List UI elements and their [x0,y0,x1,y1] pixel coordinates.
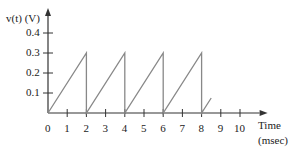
sawtooth-line [48,53,211,113]
y-axis-label-text: v(t) (V) [6,12,40,24]
x-tick-label: 10 [234,123,245,134]
x-tick-label: 0 [45,123,51,134]
x-axis-units-text: (msec) [258,134,288,146]
y-axis-arrow-icon [45,8,51,16]
y-axis-label: v(t) (V) [6,13,40,24]
x-tick-label: 5 [141,123,147,134]
x-axis-arrow-icon [260,110,268,116]
series-plot [48,53,211,113]
x-tick-label: 3 [103,123,109,134]
x-axis-units: (msec) [258,135,288,146]
x-axis-label-text: Time [258,119,281,131]
x-tick-label: 8 [199,123,205,134]
axes [45,8,268,116]
x-axis-label: Time [258,120,281,131]
y-tick-label: 0.1 [26,87,40,98]
x-tick-label: 6 [160,123,166,134]
x-tick-label: 1 [64,123,70,134]
y-tick-label: 0.2 [26,67,40,78]
x-tick-label: 4 [122,123,128,134]
x-tick-label: 2 [83,123,89,134]
y-tick-label: 0.3 [26,47,40,58]
x-tick-label: 9 [218,123,224,134]
y-tick-label: 0.4 [26,27,40,38]
x-tick-label: 7 [179,123,185,134]
